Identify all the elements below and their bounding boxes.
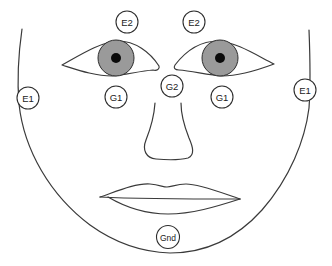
nose	[144, 103, 192, 160]
electrode-g1-right: G1	[211, 86, 233, 108]
electrode-g1-left: G1	[105, 86, 127, 108]
electrode-label: G2	[166, 81, 179, 92]
electrode-gnd: Gnd	[157, 226, 180, 249]
electrode-label: G1	[110, 92, 123, 103]
electrode-e1-left: E1	[17, 87, 39, 109]
lips	[100, 184, 240, 214]
face-electrode-diagram: E2 E2 E1 E1 G1 G1 G2 Gnd	[0, 0, 332, 266]
electrode-label: G1	[216, 92, 229, 103]
electrode-e2-right: E2	[183, 11, 205, 33]
electrode-label: E1	[22, 93, 34, 104]
right-pupil	[215, 53, 225, 63]
electrode-g2: G2	[161, 75, 183, 97]
electrode-label: Gnd	[160, 233, 176, 243]
electrode-e2-left: E2	[116, 11, 138, 33]
upper-lip	[100, 184, 240, 199]
electrode-label: E2	[121, 17, 133, 28]
left-pupil	[111, 53, 121, 63]
electrode-e1-right: E1	[294, 79, 316, 101]
lip-line	[100, 197, 240, 199]
electrode-label: E2	[188, 17, 200, 28]
electrode-label: E1	[299, 85, 311, 96]
right-eye	[174, 40, 274, 76]
face-outline	[18, 29, 310, 253]
left-eye	[62, 40, 159, 76]
